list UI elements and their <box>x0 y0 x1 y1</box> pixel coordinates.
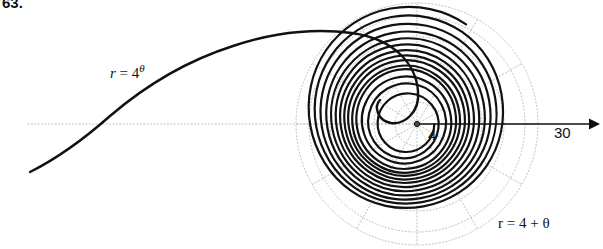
polar-axis <box>414 119 600 130</box>
axis-end-tick-label: 30 <box>554 124 571 141</box>
pole-marker <box>414 121 419 126</box>
pole-tick-label: 4 <box>428 126 436 143</box>
curve-archimedean-spiral <box>309 7 503 208</box>
label-exp-equals: = <box>116 65 132 81</box>
polar-axis-arrowhead <box>589 119 600 130</box>
label-exp-exponent: θ <box>139 62 144 74</box>
polar-spiral-figure: 63. <box>0 0 603 249</box>
polar-plot-canvas <box>0 0 603 249</box>
label-exponential-spiral: r = 4θ <box>110 62 145 82</box>
label-archimedean-spiral: r = 4 + θ <box>498 215 550 232</box>
